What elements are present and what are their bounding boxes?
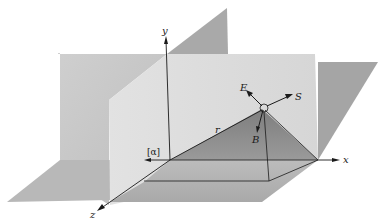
s-label: S [295,91,302,102]
y-axis-arrowhead [164,36,168,44]
floor-plane-right [318,62,378,160]
alpha-label: [α] [147,147,160,157]
b-label: B [251,134,259,145]
x-axis-label: x [343,154,349,165]
x-axis-arrowhead [332,158,340,162]
y-axis-label: y [161,25,168,36]
z-axis-arrowhead [97,204,105,211]
e-label: E [239,82,248,93]
diagram-canvas: y x z [α] r E S B [0,0,382,220]
floor-plane-left [7,160,110,202]
z-axis-label: z [89,209,96,220]
back-plane-upper [167,8,228,54]
